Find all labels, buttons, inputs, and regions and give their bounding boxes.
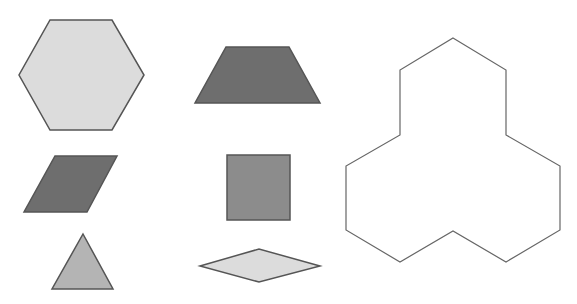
square-block[interactable] [227, 155, 290, 220]
pattern-blocks-canvas [0, 0, 577, 304]
